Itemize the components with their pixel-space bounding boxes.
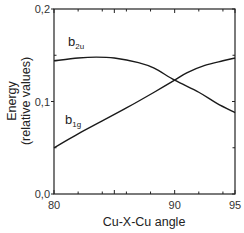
series-labels: b2u b1g <box>65 34 84 129</box>
y-axis-label: Energy <box>5 80 19 120</box>
x-tick-label: 95 <box>229 199 241 211</box>
series-line-b2u <box>54 57 235 113</box>
y-tick-label: 0,1 <box>35 96 50 108</box>
y-axis-sublabel: (relative values) <box>19 57 33 145</box>
axis-labels: Cu-X-Cu angle Energy (relative values) <box>5 57 185 229</box>
plot-frame <box>54 9 235 194</box>
series-label-b1g: b1g <box>65 112 81 129</box>
plot-border <box>54 9 235 194</box>
series-lines <box>54 57 235 148</box>
series-line-b1g <box>54 58 235 148</box>
x-tick-label: 90 <box>169 199 181 211</box>
series-label-b2u: b2u <box>68 34 84 51</box>
y-tick-label: 0,0 <box>35 188 50 200</box>
axis-ticks: 8090950,00,10,2 <box>35 3 241 211</box>
energy-vs-angle-chart: 8090950,00,10,2 Cu-X-Cu angle Energy (re… <box>0 0 244 233</box>
x-axis-label: Cu-X-Cu angle <box>103 215 186 229</box>
y-tick-label: 0,2 <box>35 3 50 15</box>
x-tick-label: 80 <box>48 199 60 211</box>
